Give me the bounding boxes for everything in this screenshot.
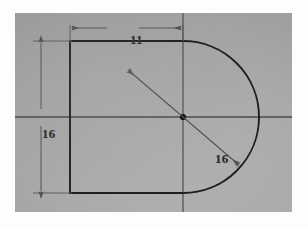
dimension-label-width: 11 bbox=[130, 33, 143, 46]
radius-leader-lower-right bbox=[183, 117, 239, 165]
sketch-photo-area: 11 16 16 bbox=[15, 13, 292, 212]
dimension-label-radius: 16 bbox=[215, 152, 229, 165]
page-canvas: 11 16 16 bbox=[0, 0, 308, 228]
engineering-drawing bbox=[15, 13, 292, 212]
dimension-label-height: 16 bbox=[42, 127, 56, 140]
radius-leader-upper-left bbox=[128, 70, 183, 117]
centerlines bbox=[15, 13, 292, 212]
